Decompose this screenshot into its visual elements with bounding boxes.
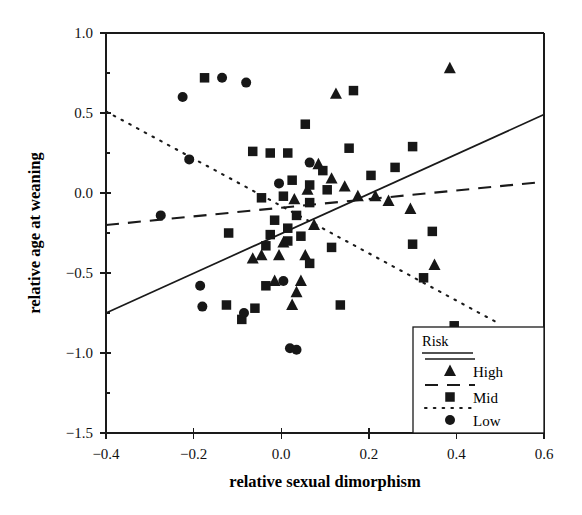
- y-tick-label: −1.5: [66, 425, 93, 441]
- data-point-mid: [222, 300, 232, 310]
- data-point-mid: [279, 191, 289, 201]
- data-point-mid: [305, 259, 315, 269]
- data-point-mid: [327, 243, 337, 253]
- data-point-mid: [301, 119, 311, 129]
- data-point-mid: [261, 281, 271, 291]
- y-tick-label: 0.0: [74, 185, 93, 201]
- data-point-mid: [248, 147, 257, 157]
- data-point-low: [197, 302, 207, 312]
- data-point-high: [273, 249, 285, 260]
- data-point-high: [404, 203, 416, 214]
- scatter-plot-figure: 1.00.50.0−0.5−1.0−1.5−0.4−0.20.00.20.40.…: [0, 0, 582, 515]
- data-point-mid: [419, 273, 429, 283]
- data-point-mid: [257, 193, 267, 203]
- y-tick-label: 1.0: [74, 25, 93, 41]
- data-point-mid: [283, 223, 293, 233]
- data-point-mid: [270, 215, 280, 225]
- data-point-high: [291, 286, 303, 297]
- data-point-high: [339, 180, 351, 191]
- data-point-mid: [344, 143, 354, 153]
- data-point-mid: [266, 148, 276, 158]
- x-tick-label: 0.2: [359, 446, 378, 462]
- x-tick-label: 0.6: [535, 446, 554, 462]
- data-point-low: [156, 210, 166, 220]
- data-point-mid: [292, 211, 302, 221]
- legend-label-mid: Mid: [473, 390, 499, 406]
- data-point-low: [195, 281, 205, 291]
- data-point-low: [278, 276, 288, 286]
- data-point-mid: [224, 228, 234, 238]
- data-point-high: [255, 249, 267, 260]
- y-tick-label: −1.0: [66, 345, 93, 361]
- legend-label-high: High: [473, 364, 504, 380]
- data-point-mid: [408, 142, 418, 152]
- x-axis-title: relative sexual dimorphism: [229, 472, 421, 491]
- data-point-mid: [366, 171, 376, 181]
- data-point-mid: [250, 303, 259, 313]
- legend-label-low: Low: [473, 413, 501, 429]
- x-tick-label: −0.2: [180, 446, 207, 462]
- legend-marker-low: [445, 415, 455, 425]
- data-point-high: [369, 190, 381, 201]
- data-point-high: [288, 193, 300, 204]
- x-tick-label: 0.4: [447, 446, 466, 462]
- data-point-high: [444, 62, 456, 73]
- data-point-high: [330, 87, 342, 98]
- data-point-mid: [266, 230, 276, 240]
- data-point-mid: [305, 198, 315, 208]
- x-tick-label: 0.0: [272, 446, 291, 462]
- y-tick-label: 0.5: [74, 105, 93, 121]
- data-point-mid: [283, 236, 293, 246]
- data-point-high: [352, 190, 364, 201]
- data-point-mid: [349, 86, 359, 96]
- fit-line-high: [106, 115, 544, 313]
- data-point-mid: [283, 148, 293, 158]
- legend-title: Risk: [422, 333, 449, 349]
- data-point-low: [178, 92, 188, 102]
- data-point-mid: [322, 185, 332, 195]
- data-point-mid: [296, 231, 306, 241]
- x-tick-label: −0.4: [92, 446, 120, 462]
- data-point-mid: [408, 239, 418, 249]
- data-point-low: [292, 345, 302, 355]
- data-point-high: [295, 275, 307, 286]
- data-point-mid: [336, 300, 346, 310]
- data-point-low: [239, 308, 249, 318]
- data-point-mid: [287, 175, 297, 185]
- data-point-low: [217, 73, 227, 83]
- data-point-mid: [318, 166, 328, 176]
- data-point-mid: [428, 227, 438, 237]
- data-point-mid: [261, 241, 271, 251]
- data-point-low: [241, 78, 251, 88]
- data-point-low: [274, 178, 284, 188]
- y-tick-label: −0.5: [66, 265, 93, 281]
- y-axis-title: relative age at weaning: [25, 152, 44, 314]
- data-point-low: [184, 154, 194, 164]
- data-point-mid: [200, 73, 210, 83]
- data-point-high: [429, 259, 441, 270]
- data-point-low: [305, 158, 315, 168]
- data-point-mid: [305, 180, 315, 190]
- data-point-mid: [390, 163, 400, 173]
- legend-marker-mid: [445, 392, 455, 402]
- data-point-high: [286, 299, 298, 310]
